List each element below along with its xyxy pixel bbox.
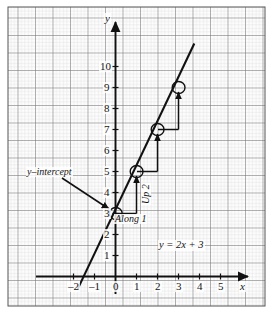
y-tick-label-7: 7 [103,124,111,135]
coordinate-plane [0,0,272,313]
x-axis-label: x [239,281,246,292]
y-axis-label: y [104,13,111,24]
x-tick-label-2: 2 [154,281,162,292]
up-2-label: Up 2 [141,183,151,205]
y-intercept-label: y–intercept [26,167,73,177]
equation-label: y = 2x + 3 [158,240,205,251]
x-tick-label-3: 3 [175,281,183,292]
y-tick-label-10: 10 [99,61,112,72]
y-tick-label-2: 2 [103,229,111,240]
y-tick-label-9: 9 [103,82,111,93]
x-tick-label-0: 0 [112,281,120,292]
x-tick-label-1: 1 [133,281,141,292]
y-tick-label-5: 5 [103,166,111,177]
y-tick-label-1: 1 [103,250,111,261]
x-tick-label-4: 4 [196,281,204,292]
x-tick-label--1: –1 [88,281,101,292]
graph-paper-grid [8,7,265,306]
x-tick-label-5: 5 [217,281,225,292]
along-1-label: Along 1 [114,214,147,224]
y-tick-label-3: 3 [103,208,111,219]
y-tick-label-4: 4 [103,187,111,198]
x-tick-label--2: –2 [67,281,80,292]
y-tick-label-6: 6 [103,145,111,156]
y-tick-label-8: 8 [103,103,111,114]
graph-figure: –2 –1 0 1 2 3 4 5 1 2 3 4 5 6 7 8 9 10 x… [0,0,272,313]
